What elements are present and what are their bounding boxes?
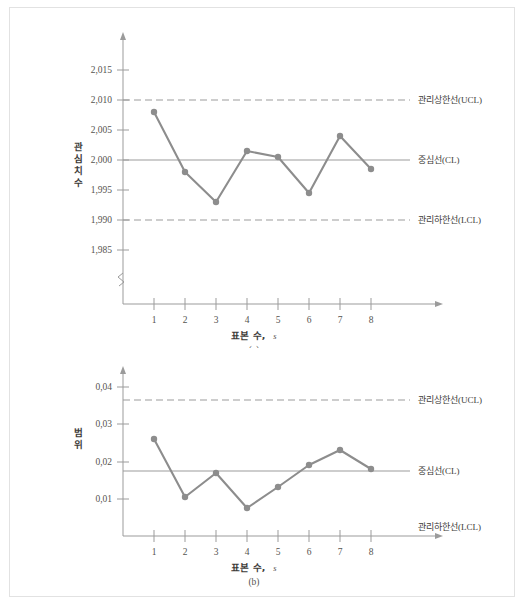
y-tick-label: 0,02 — [95, 457, 112, 467]
x-tick-label: 4 — [245, 315, 250, 325]
y-tick-label: 2,010 — [91, 95, 113, 105]
panel-label-a: (a) — [249, 345, 260, 348]
y-tick-label: 0,03 — [95, 419, 112, 429]
cl-label-b: 중심선(CL) — [418, 466, 460, 476]
x-tick-label: 4 — [245, 547, 250, 557]
x-tick-label: 2 — [183, 547, 188, 557]
x-tick-label: 2 — [183, 315, 188, 325]
x-tick-label: 8 — [369, 315, 374, 325]
series-line-a — [154, 112, 371, 202]
y-tick-label: 1,995 — [91, 185, 113, 195]
x-tick-label: 7 — [338, 315, 343, 325]
x-axis-arrow-b — [435, 533, 443, 539]
panel-label-b: (b) — [248, 577, 259, 588]
y-tick-label: 1,985 — [91, 245, 113, 255]
lcl-label-a: 관리하한선(LCL) — [418, 215, 481, 225]
y-axis-arrow-b — [120, 366, 126, 374]
x-tick-label: 8 — [369, 547, 374, 557]
series-markers-a — [151, 109, 374, 205]
y-axis-title-char: 관 — [74, 141, 83, 152]
y-axis-title-char: 수 — [74, 177, 83, 188]
x-tick-label: 1 — [152, 547, 157, 557]
x-tick-label: 1 — [152, 315, 157, 325]
x-axis-arrow-a — [435, 301, 443, 307]
y-tick-label: 0,04 — [95, 382, 112, 392]
control-chart-b: 0,04 0,03 0,02 0,01 범 위 관리상한선(UCL) 중심선(C… — [10, 350, 516, 598]
x-tick-label: 3 — [214, 547, 219, 557]
chart-b-canvas: 0,04 0,03 0,02 0,01 범 위 관리상한선(UCL) 중심선(C… — [10, 350, 516, 598]
figure-frame: 2,015 2,010 2,005 2,000 1,995 1,990 1,98… — [9, 7, 515, 597]
y-axis-title-char: 범 — [74, 427, 83, 438]
y-tick-label: 1,990 — [91, 215, 113, 225]
y-tick-label: 2,015 — [91, 65, 113, 75]
y-axis-arrow-a — [120, 32, 126, 40]
y-axis-title-char: 위 — [74, 439, 83, 450]
y-axis-title-char: 심 — [74, 153, 83, 164]
y-tick-label: 2,000 — [91, 155, 113, 165]
lcl-label-b: 관리하한선(LCL) — [418, 522, 481, 532]
ucl-label-b: 관리상한선(UCL) — [418, 395, 482, 405]
y-tick-label: 2,005 — [91, 125, 113, 135]
x-tick-label: 5 — [276, 547, 281, 557]
x-tick-label: 3 — [214, 315, 219, 325]
y-axis-title-char: 치 — [74, 165, 83, 176]
x-tick-label: 6 — [307, 315, 312, 325]
cl-label-a: 중심선(CL) — [418, 155, 460, 165]
x-tick-label: 5 — [276, 315, 281, 325]
y-tick-label: 0,01 — [95, 494, 112, 504]
control-chart-a: 2,015 2,010 2,005 2,000 1,995 1,990 1,98… — [10, 8, 516, 348]
x-tick-label: 6 — [307, 547, 312, 557]
series-markers-b — [151, 436, 374, 511]
x-axis-title-b: 표본 수, s — [231, 557, 277, 574]
x-axis-title-a: 표본 수, s — [231, 325, 277, 342]
x-tick-label: 7 — [338, 547, 343, 557]
chart-a-canvas: 2,015 2,010 2,005 2,000 1,995 1,990 1,98… — [10, 8, 516, 348]
ucl-label-a: 관리상한선(UCL) — [418, 95, 482, 105]
